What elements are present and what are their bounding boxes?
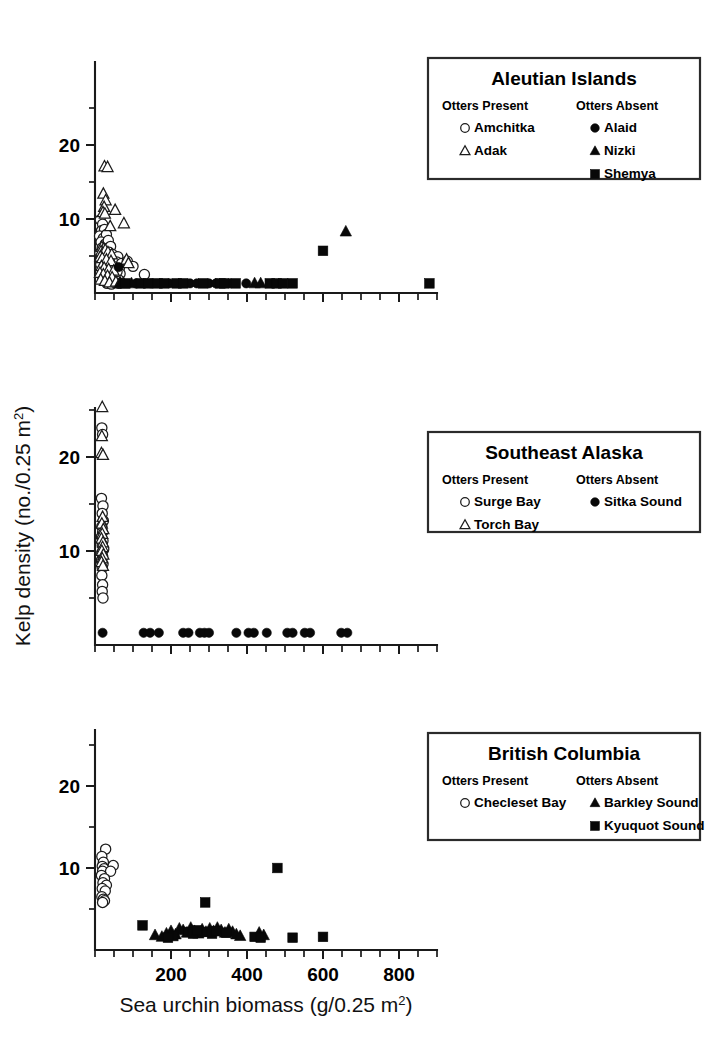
legend-header-present-southeast-alaska: Otters Present: [442, 473, 529, 487]
legend-marker-kyuquot-sound: [591, 822, 600, 831]
legend-label-nizki: Nizki: [604, 143, 636, 158]
y-axis-title-text: Kelp density (no./0.25 m2): [11, 406, 34, 647]
data-point: [204, 628, 213, 637]
data-point: [425, 279, 435, 289]
legend-title-southeast-alaska: Southeast Alaska: [485, 442, 643, 463]
data-point: [143, 279, 153, 289]
legend-marker-surge-bay: [461, 498, 470, 507]
data-point: [200, 898, 210, 908]
series-shemya: [121, 246, 435, 288]
legend-british-columbia: British ColumbiaOtters PresentOtters Abs…: [428, 733, 704, 840]
data-point: [121, 279, 131, 289]
legend-label-sitka-sound: Sitka Sound: [604, 494, 682, 509]
legend-header-absent-southeast-alaska: Otters Absent: [576, 473, 659, 487]
data-point: [288, 628, 297, 637]
y-tick-label-20: 20: [59, 447, 80, 468]
data-point: [178, 279, 188, 289]
legend-marker-amchitka: [461, 124, 470, 133]
data-point: [343, 628, 352, 637]
data-point: [231, 279, 241, 289]
panel-axes-3: [95, 730, 437, 950]
legend-label-shemya: Shemya: [604, 166, 656, 181]
data-point: [114, 263, 123, 272]
legend-title-aleutian-islands: Aleutian Islands: [491, 68, 637, 89]
kelp-urchin-figure: 102010201020200400600800Aleutian Islands…: [0, 0, 724, 1050]
y-tick-label-20: 20: [59, 776, 80, 797]
data-point: [318, 932, 328, 942]
legend-header-absent-british-columbia: Otters Absent: [576, 774, 659, 788]
legend-label-amchitka: Amchitka: [474, 120, 535, 135]
data-point: [184, 628, 193, 637]
x-tick-label-200: 200: [155, 964, 187, 985]
data-point: [192, 926, 202, 936]
x-tick-label-800: 800: [383, 964, 415, 985]
data-point: [219, 279, 229, 289]
data-point: [199, 279, 209, 289]
figure-canvas: 102010201020200400600800Aleutian Islands…: [0, 0, 724, 1050]
data-point: [340, 225, 351, 236]
legend-marker-shemya: [591, 170, 600, 179]
data-point: [288, 279, 298, 289]
y-tick-label-10: 10: [59, 209, 80, 230]
legend-aleutian-islands: Aleutian IslandsOtters PresentOtters Abs…: [428, 58, 700, 181]
data-point: [163, 933, 173, 943]
data-point: [98, 593, 108, 603]
data-point: [256, 933, 266, 943]
legend-marker-checleset-bay: [461, 799, 470, 808]
data-point: [262, 628, 271, 637]
data-point: [273, 863, 283, 873]
data-point: [97, 570, 107, 580]
legend-southeast-alaska: Southeast AlaskaOtters PresentOtters Abs…: [428, 432, 700, 532]
data-point: [305, 628, 314, 637]
legend-label-surge-bay: Surge Bay: [474, 494, 541, 509]
x-tick-label-400: 400: [231, 964, 263, 985]
x-axis-title: Sea urchin biomass (g/0.25 m2): [119, 993, 412, 1016]
legend-marker-sitka-sound: [591, 498, 600, 507]
panel-data-1: [94, 160, 434, 289]
data-point: [146, 628, 155, 637]
data-point: [288, 933, 298, 943]
panel-data-3: [96, 844, 327, 942]
x-tick-label-600: 600: [307, 964, 339, 985]
x-axis-title-text: Sea urchin biomass (g/0.25 m2): [119, 993, 412, 1016]
legend-title-british-columbia: British Columbia: [488, 743, 640, 764]
data-point: [249, 628, 258, 637]
data-point: [222, 928, 232, 938]
legend-label-torch-bay: Torch Bay: [474, 517, 540, 532]
data-point: [98, 897, 108, 907]
legend-label-barkley-sound: Barkley Sound: [604, 795, 699, 810]
data-point: [98, 628, 107, 637]
panel-2: 1020: [59, 408, 437, 654]
data-point: [139, 269, 149, 279]
data-point: [154, 628, 163, 637]
legend-marker-alaid: [591, 124, 600, 133]
data-point: [278, 279, 288, 289]
data-point: [318, 246, 328, 256]
data-point: [211, 926, 221, 936]
data-point: [138, 921, 148, 931]
y-tick-label-10: 10: [59, 541, 80, 562]
series-checleset-bay: [96, 844, 118, 908]
panel-axes-2: [95, 408, 437, 645]
data-point: [110, 204, 121, 214]
data-point: [118, 217, 129, 227]
legend-header-present-aleutian-islands: Otters Present: [442, 99, 529, 113]
data-point: [97, 401, 108, 411]
legend-header-absent-aleutian-islands: Otters Absent: [576, 99, 659, 113]
panel-axes-1: [95, 62, 437, 293]
data-point: [232, 628, 241, 637]
panel-data-2: [96, 401, 352, 637]
data-point: [159, 279, 169, 289]
y-tick-label-10: 10: [59, 858, 80, 879]
legend-label-kyuquot-sound: Kyuquot Sound: [604, 818, 704, 833]
panel-3: 1020200400600800: [59, 730, 437, 985]
legend-label-adak: Adak: [474, 143, 508, 158]
legend-header-present-british-columbia: Otters Present: [442, 774, 529, 788]
y-axis-title: Kelp density (no./0.25 m2): [11, 406, 34, 647]
y-tick-label-20: 20: [59, 135, 80, 156]
legend-label-alaid: Alaid: [604, 120, 637, 135]
series-sitka-sound: [98, 628, 352, 637]
legend-label-checleset-bay: Checleset Bay: [474, 795, 567, 810]
